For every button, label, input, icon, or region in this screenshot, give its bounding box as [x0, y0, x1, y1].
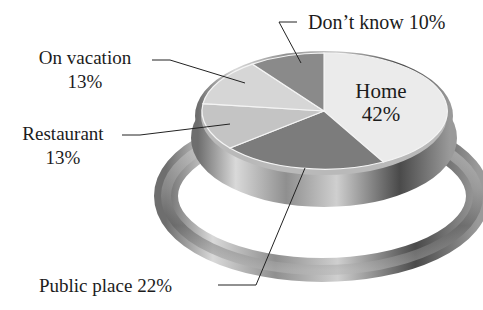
label-on-vacation-value: 13%: [22, 72, 148, 92]
label-restaurant: Restaurant 13%: [8, 124, 118, 168]
pie-chart-figure: Don’t know 10% On vacation 13% Restauran…: [0, 0, 483, 310]
label-public-place: Public place 22%: [39, 276, 172, 296]
label-restaurant-value: 13%: [8, 148, 118, 168]
label-dont-know: Don’t know 10%: [308, 12, 445, 32]
label-home-value: 42%: [345, 103, 417, 126]
label-home: Home 42%: [345, 80, 417, 126]
label-on-vacation-name: On vacation: [22, 48, 148, 68]
label-home-name: Home: [345, 80, 417, 103]
label-on-vacation: On vacation 13%: [22, 48, 148, 92]
label-restaurant-name: Restaurant: [8, 124, 118, 144]
